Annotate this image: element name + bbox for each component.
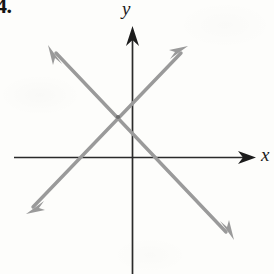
figure-canvas: 4. y x <box>0 0 274 274</box>
descending-line-segment <box>56 53 226 232</box>
axes-group <box>14 26 256 274</box>
ascending-line-group <box>26 46 188 214</box>
descending-line-group <box>48 45 234 240</box>
intersection-point-marker <box>116 115 120 119</box>
ascending-line-segment <box>33 53 181 207</box>
coordinate-plane-graphic <box>0 0 274 274</box>
